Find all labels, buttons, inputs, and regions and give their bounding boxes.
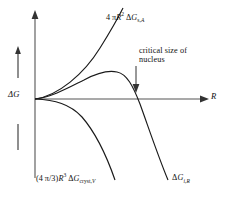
x-axis — [35, 96, 209, 103]
y-axis-arrowhead — [32, 10, 39, 19]
annotation-critical-size: critical size of nucleus — [139, 46, 213, 65]
curve-label-total-free-energy: ΔGi,R — [172, 173, 190, 184]
plot-area — [0, 0, 226, 202]
curve-volume-energy — [35, 99, 115, 180]
curve-label-volume-energy: (4 π/3)R3 ΔGcryst,V — [36, 172, 95, 184]
y-axis — [32, 10, 39, 178]
y-axis-label: ΔG — [8, 90, 19, 100]
nucleation-free-energy-diagram: 4 πR2 ΔGs,A critical size of nucleus (4 … — [0, 0, 226, 202]
curve-label-surface-energy: 4 πR2 ΔGs,A — [106, 11, 144, 23]
y-direction-up-arrow — [15, 46, 21, 54]
x-axis-arrowhead — [200, 96, 209, 103]
curve-total-free-energy — [35, 71, 168, 180]
x-axis-label: R — [211, 92, 216, 102]
